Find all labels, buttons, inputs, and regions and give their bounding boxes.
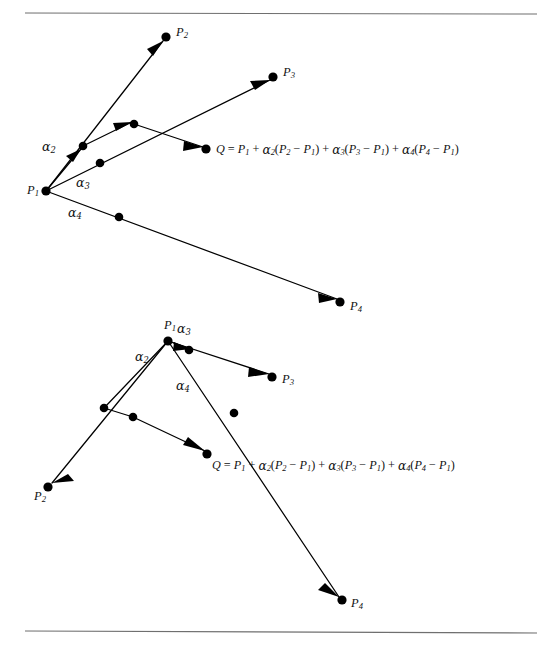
label-p2: P2 [175, 25, 189, 40]
formula-top: Q = P1 + α2(P2 − P1) + α3(P3 − P1) + α4(… [216, 142, 459, 157]
label-alpha3: α3 [76, 175, 90, 191]
label-alpha2: α2 [42, 139, 56, 155]
top-diagram: P1 P2 P3 P4 α2 α3 α4 Q = P1 + α2(P2 − P1… [26, 25, 459, 314]
label-alpha2-sub: 2 [49, 145, 55, 155]
arrowhead-b-p4 [318, 583, 339, 597]
label-p1: P1 [26, 183, 39, 198]
label-b-p3-base: P [281, 372, 290, 386]
label-b-p3: P3 [281, 372, 294, 387]
edge-alpha4-vector [134, 124, 203, 147]
label-b-p2: P2 [33, 489, 47, 504]
label-alpha3-sub: 3 [84, 181, 89, 191]
label-b-p2-sub: 2 [42, 494, 47, 504]
label-b-p2-base: P [33, 489, 42, 503]
arrowhead-alpha3 [113, 122, 132, 131]
dot-q [201, 144, 210, 153]
label-p2-base: P [175, 25, 184, 39]
label-p1-base: P [26, 183, 35, 197]
label-p3-base: P [282, 65, 291, 79]
dot-p1 [41, 186, 50, 195]
label-p1-sub: 1 [35, 188, 39, 198]
dot-alpha3-endpoint [96, 159, 105, 168]
dot-b-partial-sum [129, 413, 138, 422]
edge-p1-to-p4 [46, 191, 337, 299]
dot-alpha2-endpoint [79, 142, 88, 151]
dot-b-p2 [43, 482, 52, 491]
label-b-p3-sub: 3 [289, 377, 294, 387]
arrowhead-b-p3 [248, 367, 269, 377]
label-b-p1-base: P [163, 318, 172, 332]
dot-b-q [202, 449, 211, 458]
dot-b-p3 [267, 372, 276, 381]
label-b-alpha3: α3 [177, 321, 191, 337]
label-p3-sub: 3 [290, 70, 295, 80]
dot-b-alpha4-endpoint [230, 409, 239, 418]
edge-b-alpha3-translated [104, 408, 133, 417]
dot-b-p1 [163, 336, 172, 345]
dot-partial-sum [130, 120, 139, 129]
bottom-diagram: P1 P2 P3 P4 α2 α3 α4 Q = P1 + α2(P2 − P1… [33, 318, 455, 611]
label-b-alpha2-sub: 2 [142, 355, 148, 365]
label-b-p4-base: P [350, 596, 359, 610]
label-p4-sub: 4 [358, 304, 363, 314]
label-p3: P3 [282, 65, 295, 80]
label-p2-sub: 2 [184, 30, 189, 40]
label-b-alpha4: α4 [176, 378, 190, 394]
label-b-alpha3-sub: 3 [185, 327, 190, 337]
label-b-p4: P4 [350, 596, 364, 611]
label-p4: P4 [349, 299, 363, 314]
dot-b-p4 [337, 595, 346, 604]
label-p4-base: P [349, 299, 358, 313]
label-b-alpha4-sub: 4 [183, 384, 189, 394]
dot-b-alpha3-endpoint [185, 346, 194, 355]
label-alpha4: α4 [68, 205, 82, 221]
edge-p1-to-p2 [46, 41, 163, 191]
formula-bottom: Q = P1 + α2(P2 − P1) + α3(P3 − P1) + α4(… [212, 458, 455, 473]
arrowhead-b-q [183, 437, 205, 451]
label-b-alpha2: α2 [135, 349, 149, 365]
dot-alpha4-endpoint [115, 213, 124, 222]
dot-p4 [335, 297, 344, 306]
dot-b-alpha2-endpoint [100, 404, 109, 413]
arrowhead-alpha2 [66, 149, 81, 162]
label-alpha4-sub: 4 [75, 211, 81, 221]
label-b-p4-sub: 4 [359, 601, 364, 611]
edge-b-p1-to-p2 [52, 341, 168, 483]
label-b-p1-sub: 1 [172, 323, 176, 333]
arrowhead-p2 [147, 41, 163, 56]
dot-p2 [161, 32, 170, 41]
bottom-rule [25, 631, 537, 633]
label-b-p1: P1 [163, 318, 176, 333]
figure-root: P1 P2 P3 P4 α2 α3 α4 Q = P1 + α2(P2 − P1… [0, 0, 537, 646]
dot-p3 [268, 72, 277, 81]
figure-canvas: P1 P2 P3 P4 α2 α3 α4 Q = P1 + α2(P2 − P1… [0, 0, 537, 646]
top-rule [25, 13, 537, 14]
